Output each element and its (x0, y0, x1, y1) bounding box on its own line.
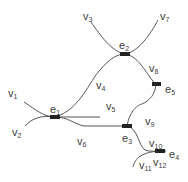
label-e2: e2 (119, 40, 129, 52)
edge-e1-e3-v6 (55, 117, 127, 126)
label-e3: e3 (122, 133, 132, 145)
label-v11: v11 (139, 160, 152, 172)
label-e4: e4 (169, 149, 179, 161)
label-v4: v4 (96, 80, 105, 92)
hypergraph-diagram: e1 e2 e3 e4 e5 v1 v2 v3 v4 v5 v6 v7 v8 v… (0, 0, 188, 182)
label-v9: v9 (145, 116, 154, 128)
label-v1: v1 (8, 88, 17, 100)
label-v10: v10 (149, 138, 162, 150)
edges-layer (0, 0, 188, 182)
label-v6: v6 (77, 136, 86, 148)
label-v3: v3 (83, 11, 92, 23)
e5-node (152, 82, 161, 86)
label-v12: v12 (153, 157, 166, 169)
label-e1: e1 (50, 104, 60, 116)
edge-v7-e2 (125, 20, 158, 54)
label-e5: e5 (165, 84, 175, 96)
e2-node (120, 52, 130, 56)
label-v7: v7 (160, 11, 169, 23)
label-v8: v8 (149, 63, 158, 75)
label-v5: v5 (106, 101, 115, 113)
label-v2: v2 (12, 127, 21, 139)
e3-node (122, 124, 132, 128)
